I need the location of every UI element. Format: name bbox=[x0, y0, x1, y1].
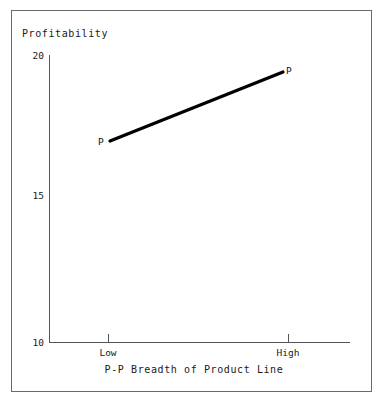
x-axis-title: P-P Breadth of Product Line bbox=[0, 364, 388, 375]
data-point-label-high: P bbox=[286, 65, 292, 76]
y-axis-title: Profitability bbox=[22, 28, 108, 39]
plot-area bbox=[0, 0, 388, 407]
data-point-label-low: P bbox=[98, 136, 104, 147]
chart-screenshot: Profitability 20 15 10 Low High P P P-P … bbox=[0, 0, 388, 407]
y-tick-label-20: 20 bbox=[14, 50, 44, 61]
x-tick-label-low: Low bbox=[78, 347, 138, 358]
y-tick-label-10: 10 bbox=[14, 337, 44, 348]
series-line-p bbox=[110, 72, 283, 141]
y-tick-label-15: 15 bbox=[14, 190, 44, 201]
x-tick-label-high: High bbox=[258, 347, 318, 358]
